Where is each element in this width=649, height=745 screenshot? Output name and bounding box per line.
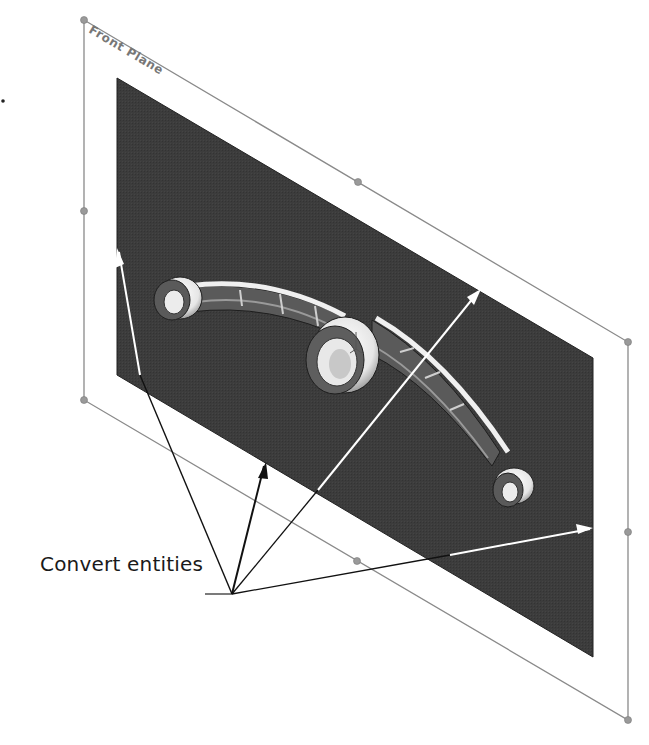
plane-handle-right-mid[interactable]	[625, 529, 632, 536]
plane-handle-top-mid[interactable]	[355, 179, 362, 186]
diagram-canvas: Front Plane	[0, 0, 649, 745]
callout-label: Convert entities	[40, 552, 203, 576]
plane-handle-top-right[interactable]	[625, 339, 632, 346]
plane-handle-top-left[interactable]	[81, 17, 88, 24]
plane-label: Front Plane	[86, 23, 166, 78]
stray-dot	[1, 99, 5, 103]
arrowhead-bottom	[258, 462, 268, 479]
plane-handle-bottom-left[interactable]	[81, 397, 88, 404]
plane-handle-left-mid[interactable]	[81, 208, 88, 215]
plane-handle-bottom-mid[interactable]	[354, 558, 361, 565]
plane-handle-bottom-right[interactable]	[625, 717, 632, 724]
